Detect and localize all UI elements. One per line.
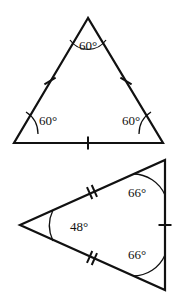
top-triangle-bottom-left-angle-label: 60° [39,113,57,128]
bottom-triangle-bottom-right-angle-label: 66° [128,247,146,262]
geometry-figure-canvas: 60° 60° 60° 48° [0,0,174,303]
top-triangle-group: 60° 60° 60° [14,18,163,150]
bottom-triangle-group: 48° 66° 66° [20,160,172,290]
bottom-triangle-outline [20,160,165,290]
bottom-triangle-left-apex-angle-label: 48° [70,219,88,234]
top-triangle-bottom-right-angle-arc [139,112,151,134]
bottom-triangle-left-apex-angle-arc [49,210,53,241]
top-triangle-apex-angle-label: 60° [79,38,97,53]
top-triangle-bottom-right-angle-label: 60° [122,113,140,128]
top-triangle-bottom-left-angle-arc [26,112,38,134]
triangles-diagram: 60° 60° 60° 48° [0,0,174,303]
bottom-triangle-top-right-angle-label: 66° [128,185,146,200]
